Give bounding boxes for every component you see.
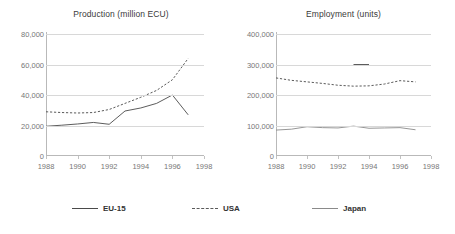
gridline xyxy=(46,95,204,96)
gridline xyxy=(46,65,204,66)
y-axis-labels-employment: 400,000300,000200,000100,0000 xyxy=(228,34,274,156)
x-axis-tick-mark xyxy=(141,156,142,159)
series-line-usa xyxy=(276,78,416,86)
chart-panel-employment: Employment (units) 400,000300,000200,000… xyxy=(228,0,455,190)
gridline xyxy=(276,95,431,96)
series-line-usa xyxy=(46,58,188,113)
chart-legend: EU-15 USA Japan xyxy=(0,196,455,234)
legend-swatch-usa xyxy=(192,208,218,209)
x-axis-tick-label: 1996 xyxy=(392,162,409,171)
plot-area-employment xyxy=(276,34,431,156)
legend-label-eu15: EU-15 xyxy=(103,204,126,213)
y-axis-labels-production: 80,00060,00040,00020,0000 xyxy=(0,34,44,156)
legend-swatch-eu15 xyxy=(72,208,98,209)
x-axis-tick-label: 1998 xyxy=(196,162,213,171)
y-axis-tick-label: 40,000 xyxy=(21,91,44,100)
y-axis-tick-label: 0 xyxy=(40,152,44,161)
chart-title-employment: Employment (units) xyxy=(228,9,455,19)
x-axis-tick-mark xyxy=(78,156,79,159)
legend-item-eu15[interactable]: EU-15 xyxy=(72,204,126,213)
x-axis-tick-mark xyxy=(204,156,205,159)
y-axis-tick-label: 20,000 xyxy=(21,121,44,130)
x-axis-tick-label: 1992 xyxy=(330,162,347,171)
x-axis-tick-label: 1990 xyxy=(299,162,316,171)
y-axis-tick-label: 400,000 xyxy=(247,30,274,39)
x-axis-tick-mark xyxy=(369,156,370,159)
legend-item-usa[interactable]: USA xyxy=(192,204,240,213)
series-line-eu-15 xyxy=(46,95,188,126)
legend-item-japan[interactable]: Japan xyxy=(312,204,366,213)
gridline xyxy=(276,34,431,35)
x-axis-tick-label: 1998 xyxy=(423,162,440,171)
y-axis-tick-label: 80,000 xyxy=(21,30,44,39)
x-axis-tick-label: 1996 xyxy=(164,162,181,171)
x-axis-tick-mark xyxy=(338,156,339,159)
x-axis-tick-label: 1988 xyxy=(38,162,55,171)
legend-swatch-japan xyxy=(312,208,338,209)
x-axis-tick-label: 1994 xyxy=(361,162,378,171)
legend-label-japan: Japan xyxy=(343,204,366,213)
x-axis-labels-employment: 198819901992199419961998 xyxy=(276,162,431,176)
x-axis-labels-production: 198819901992199419961998 xyxy=(46,162,204,176)
x-axis-tick-label: 1992 xyxy=(101,162,118,171)
gridline xyxy=(276,126,431,127)
x-axis-tick-mark xyxy=(431,156,432,159)
x-axis-tick-mark xyxy=(172,156,173,159)
y-axis-tick-label: 300,000 xyxy=(247,60,274,69)
x-axis-tick-mark xyxy=(276,156,277,159)
x-axis-tick-mark xyxy=(307,156,308,159)
chart-figure: Production (million ECU) 80,00060,00040,… xyxy=(0,0,455,234)
gridline xyxy=(276,65,431,66)
legend-label-usa: USA xyxy=(223,204,240,213)
series-line-japan xyxy=(276,126,416,130)
gridline xyxy=(46,126,204,127)
y-axis-tick-label: 200,000 xyxy=(247,91,274,100)
x-axis-tick-label: 1990 xyxy=(69,162,86,171)
x-axis-tick-label: 1988 xyxy=(268,162,285,171)
x-axis-tick-label: 1994 xyxy=(132,162,149,171)
y-axis-tick-label: 0 xyxy=(270,152,274,161)
chart-panel-production: Production (million ECU) 80,00060,00040,… xyxy=(0,0,228,190)
plot-area-production xyxy=(46,34,204,156)
x-axis-tick-mark xyxy=(46,156,47,159)
x-axis-tick-mark xyxy=(109,156,110,159)
x-axis-tick-mark xyxy=(400,156,401,159)
gridline xyxy=(46,34,204,35)
chart-title-production: Production (million ECU) xyxy=(0,9,228,19)
y-axis-tick-label: 60,000 xyxy=(21,60,44,69)
y-axis-tick-label: 100,000 xyxy=(247,121,274,130)
